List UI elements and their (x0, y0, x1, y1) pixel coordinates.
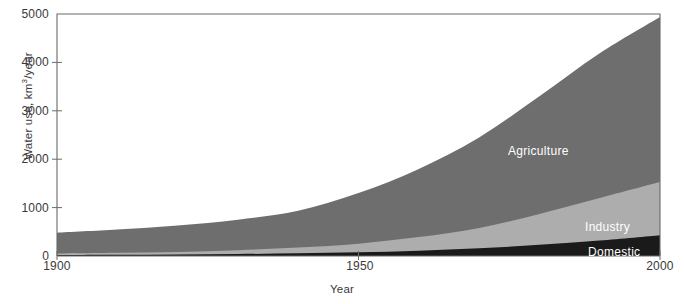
y-tick-label-3000: 3000 (5, 104, 49, 118)
stacked-areas (57, 17, 660, 256)
y-axis-title-pre: Water use, km (22, 83, 34, 159)
series-label-domestic: Domestic (588, 245, 640, 259)
y-tick-label-1000: 1000 (5, 201, 49, 215)
x-axis-title: Year (0, 283, 684, 295)
x-tick-label-1950: 1950 (330, 259, 390, 273)
y-tick-label-2000: 2000 (5, 152, 49, 166)
series-label-agriculture: Agriculture (508, 144, 569, 158)
chart-figure: Water use, km3/year Year 5000 4000 3000 … (0, 0, 684, 304)
y-axis-title-exponent: 3 (20, 79, 29, 84)
x-tick-label-2000: 2000 (630, 259, 684, 273)
y-tick-label-4000: 4000 (5, 55, 49, 69)
series-label-industry: Industry (585, 220, 630, 234)
x-tick-label-1900: 1900 (27, 259, 87, 273)
y-tick-label-5000: 5000 (5, 7, 49, 21)
